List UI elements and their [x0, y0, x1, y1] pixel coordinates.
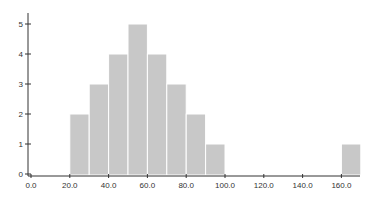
x-tick-label: 80.0 — [178, 181, 194, 190]
x-tick-label: 120.0 — [254, 181, 275, 190]
x-tick-label: 140.0 — [293, 181, 314, 190]
histogram-bar — [128, 24, 147, 175]
x-tick-label: 0.0 — [25, 181, 37, 190]
x-tick-label: 40.0 — [101, 181, 117, 190]
histogram-bar — [206, 144, 225, 175]
x-tick-label: 20.0 — [62, 181, 78, 190]
y-tick-label: 0 — [19, 170, 24, 179]
histogram-bars — [70, 24, 361, 175]
histogram-bar — [70, 114, 89, 175]
histogram-bar — [109, 54, 128, 175]
histogram-bar — [186, 114, 205, 175]
y-tick-label: 5 — [19, 20, 24, 29]
y-tick-label: 1 — [19, 140, 24, 149]
x-tick-label: 100.0 — [215, 181, 236, 190]
x-tick-label: 160.0 — [331, 181, 352, 190]
y-axis-ticks: 012345 — [19, 20, 31, 179]
y-tick-label: 3 — [19, 80, 24, 89]
y-tick-label: 2 — [19, 110, 24, 119]
x-tick-label: 60.0 — [140, 181, 156, 190]
y-tick-label: 4 — [19, 50, 24, 59]
histogram-bar — [147, 54, 166, 175]
histogram-chart: 012345 0.020.040.060.080.0100.0120.0140.… — [0, 0, 373, 200]
histogram-bar — [167, 84, 186, 175]
histogram-bar — [89, 84, 108, 175]
histogram-bar — [341, 144, 360, 175]
